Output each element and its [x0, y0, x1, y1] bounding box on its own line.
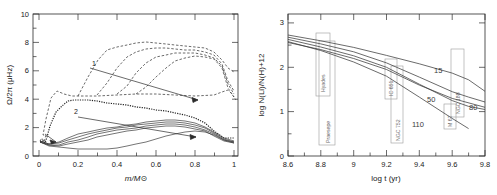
left-ytick-2: 2 — [25, 123, 29, 132]
right-xtick-88: 8.8 — [316, 160, 326, 169]
right-xtick-96: 9.6 — [447, 160, 457, 169]
left-xtick-02: 0.2 — [73, 160, 83, 169]
left-ytick-6: 6 — [25, 66, 29, 75]
left-ytick-0: 0 — [25, 152, 29, 161]
right-xtick-94: 9.4 — [414, 160, 424, 169]
right-ytick-3: 3 — [280, 18, 284, 27]
right-xaxis-label: log t (yr) — [371, 174, 401, 183]
right-plot-frame — [288, 14, 485, 156]
curve-dashed-4 — [117, 53, 234, 94]
cluster-label-hyades: Hyades — [320, 74, 326, 92]
right-x-ticks — [288, 14, 485, 156]
right-xtick-86: 8.6 — [283, 160, 293, 169]
left-annotation-arrows — [45, 68, 198, 144]
curve-dashed-3 — [97, 48, 234, 95]
left-y-ticks — [33, 14, 238, 156]
left-ytick-4: 4 — [25, 95, 29, 104]
two-panel-figure: 0 2 4 6 8 10 0 0.2 0.4 0.6 0.8 1 m/M⊙ Ω/… — [0, 0, 497, 195]
curve-label-50: 50 — [427, 95, 435, 104]
cluster-label-ngc752: NGC 752 — [395, 119, 401, 141]
left-curves — [40, 42, 236, 149]
left-xaxis-label: m/M⊙ — [125, 174, 147, 183]
right-ytick-1: 1 — [280, 107, 284, 116]
curve-dashed-5 — [136, 56, 234, 97]
cluster-label-ic651: IC 651 — [388, 81, 394, 96]
left-xtick-04: 0.4 — [112, 160, 122, 169]
left-ytick-8: 8 — [25, 38, 29, 47]
curve-label-110: 110 — [412, 120, 424, 129]
right-yaxis-label: log N(Li)/N(H)+12 — [257, 53, 266, 116]
left-x-ticks — [39, 14, 234, 156]
left-annotation-2: 2 — [74, 108, 78, 115]
left-xtick-06: 0.6 — [151, 160, 161, 169]
left-ytick-10: 10 — [21, 10, 29, 19]
left-xtick-08: 0.8 — [190, 160, 200, 169]
curve-dashed-1 — [40, 90, 236, 142]
left-xtick-0: 0 — [37, 160, 41, 169]
right-xtick-9: 9 — [352, 160, 356, 169]
curve-dotted-plateau — [40, 100, 234, 143]
figure-root: 0 2 4 6 8 10 0 0.2 0.4 0.6 0.8 1 m/M⊙ Ω/… — [0, 0, 497, 195]
right-xtick-98: 9.8 — [480, 160, 490, 169]
left-xtick-1: 1 — [232, 160, 236, 169]
curve-model-110 — [288, 42, 469, 129]
curve-solid-4 — [40, 126, 234, 146]
curve-label-15: 15 — [434, 66, 442, 75]
right-xtick-92: 9.2 — [381, 160, 391, 169]
curve-label-80: 80 — [469, 103, 477, 112]
curve-solid-2 — [40, 122, 234, 144]
left-plot-frame — [33, 14, 238, 156]
left-yaxis-label: Ω/2π (μHz) — [5, 65, 14, 105]
right-panel: 0 1 2 3 8.6 8.8 9 9.2 9.4 9.6 9.8 log t … — [257, 14, 490, 183]
right-ytick-2: 2 — [280, 63, 284, 72]
cluster-label-praesepe: Praesepe — [325, 121, 331, 143]
left-panel: 0 2 4 6 8 10 0 0.2 0.4 0.6 0.8 1 m/M⊙ Ω/… — [5, 10, 238, 184]
left-annotation-1: 1 — [92, 60, 96, 67]
